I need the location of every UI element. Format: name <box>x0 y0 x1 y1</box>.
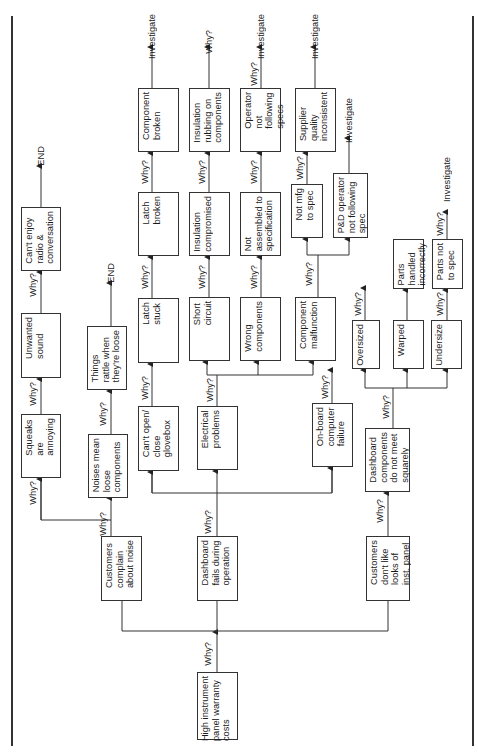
node-label: Customers complain about noise <box>102 537 138 591</box>
node-insulation-compromised: Insulation compromised <box>189 192 230 256</box>
node-undersize: Undersize <box>431 320 462 369</box>
node-label: Dashboard components do not meet squarel… <box>366 429 412 486</box>
root-node-label: High instrument panel warranty costs <box>198 673 234 744</box>
node-not-mfg-to-spec: Not mfg to spec <box>291 184 323 238</box>
node-label: Things rattle when they're loose <box>88 327 124 385</box>
why-label: Why? <box>249 265 259 289</box>
why-label: Why? <box>353 292 363 316</box>
node-label: Latch broken <box>139 193 164 227</box>
node-label: Component broken <box>139 89 164 143</box>
investigate-label: Investigate <box>344 98 354 143</box>
node-label: Insulation compromised <box>190 193 215 255</box>
node-cant-open-glovebox: Can't open/ close glovebox <box>138 406 179 471</box>
node-oversized: Oversized <box>352 320 380 369</box>
node-label: Short circuit <box>190 298 215 328</box>
end-label: END <box>106 263 116 283</box>
why-label: Why? <box>98 402 108 426</box>
node-customers-complain-noise: Customers complain about noise <box>101 536 142 601</box>
node-customers-dont-like-looks: Customers don't like looks of inst. pane… <box>366 536 410 601</box>
node-latch-stuck: Latch stuck <box>138 298 179 363</box>
node-label: On-board computer failure <box>313 404 349 449</box>
node-label: Insulation rubbing on components <box>190 89 226 146</box>
investigate-label: Investigate <box>310 14 320 59</box>
node-label: Operator not following specs <box>241 89 287 132</box>
node-unwanted-sound: Unwanted sound <box>21 313 61 378</box>
why-terminal-label: Why? <box>204 30 214 54</box>
why-label: Why? <box>197 265 207 289</box>
why-label: Why? <box>320 375 330 399</box>
node-dashboard-fails: Dashboard fails during operation <box>197 536 238 601</box>
node-label: Electrical problems <box>198 407 223 451</box>
why-label: Why? <box>98 512 108 536</box>
node-short-circuit: Short circuit <box>189 297 230 361</box>
why-label: Why? <box>140 265 150 289</box>
node-label: Dashboard fails during operation <box>198 537 234 588</box>
node-warped: Warped <box>393 320 424 369</box>
node-label: Not mfg to spec <box>292 185 317 224</box>
node-component-malfunction: Component malfunction <box>295 297 336 361</box>
why-label: Why? <box>381 395 391 419</box>
why-label: Why? <box>203 510 213 534</box>
node-noises-mean-loose: Noises mean loose components <box>88 434 128 498</box>
node-squeaks-annoying: Squeaks are annoying <box>21 414 61 478</box>
node-onboard-computer: On-board computer failure <box>312 403 353 467</box>
node-dashboard-components: Dashboard components do not meet squarel… <box>365 428 410 492</box>
node-insulation-rubbing: Insulation rubbing on components <box>189 88 230 152</box>
node-label: Parts handled incorrectly <box>394 240 430 288</box>
node-component-broken: Component broken <box>138 88 179 152</box>
node-label: Can't enjoy radio & conversation <box>22 208 58 267</box>
node-things-rattle: Things rattle when they're loose <box>87 326 127 390</box>
why-label: Why? <box>375 499 385 523</box>
node-label: Wrong components <box>241 298 266 355</box>
node-cant-enjoy-radio: Can't enjoy radio & conversation <box>21 207 61 271</box>
connector-lines <box>0 0 478 753</box>
node-not-assembled: Not assembled to specification <box>240 192 281 256</box>
investigate-label: Investigate <box>147 14 157 59</box>
investigate-label: Investigate <box>256 14 266 59</box>
end-label: END <box>36 146 46 166</box>
node-label: Can't open/ close glovebox <box>139 407 175 460</box>
node-parts-handled: Parts handled incorrectly <box>393 239 424 289</box>
node-label: Warped <box>394 321 409 359</box>
why-label: Why? <box>28 273 38 297</box>
node-label: Unwanted sound <box>22 314 47 362</box>
node-label: Not assembled to specification <box>241 193 277 254</box>
node-label: Supplier quality inconsistent <box>296 89 332 144</box>
node-latch-broken: Latch broken <box>138 192 179 256</box>
node-label: P&D operator not following spec <box>334 174 370 236</box>
root-node: High instrument panel warranty costs <box>197 672 238 740</box>
why-label: Why? <box>140 376 150 400</box>
why-label: Why? <box>435 292 445 316</box>
node-wrong-components: Wrong components <box>240 297 281 361</box>
why-label: Why? <box>249 160 259 184</box>
investigate-label: Investigate <box>442 157 452 202</box>
why-label: Why? <box>28 481 38 505</box>
node-label: Noises mean loose components <box>89 435 125 495</box>
node-electrical-problems: Electrical problems <box>197 406 238 470</box>
why-label: Why? <box>295 156 305 180</box>
node-label: Parts not to spec <box>433 240 458 283</box>
node-label: Latch stuck <box>139 299 164 328</box>
why-label: Why? <box>205 378 215 402</box>
why-label: Why? <box>197 160 207 184</box>
node-label: Customers don't like looks of inst. pane… <box>367 537 413 588</box>
why-label: Why? <box>304 262 314 286</box>
node-supplier-quality: Supplier quality inconsistent <box>295 88 336 152</box>
node-label: Squeaks are annoying <box>22 415 58 459</box>
why-label: Why? <box>249 62 259 86</box>
node-label: Undersize <box>432 321 447 369</box>
node-pd-operator: P&D operator not following spec <box>333 173 368 238</box>
why-label: Why? <box>203 642 213 666</box>
node-label: Component malfunction <box>296 298 321 352</box>
node-operator-not-following: Operator not following specs <box>240 88 281 152</box>
why-label: Why? <box>140 160 150 184</box>
why-label: Why? <box>435 212 445 236</box>
why-label: Why? <box>28 382 38 406</box>
node-parts-not-to-spec: Parts not to spec <box>432 239 463 289</box>
node-label: Oversized <box>353 321 368 369</box>
